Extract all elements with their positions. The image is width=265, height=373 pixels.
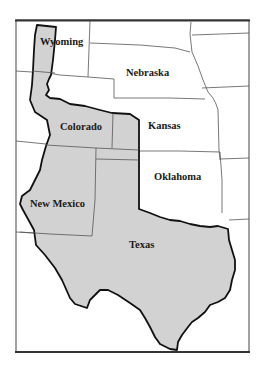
label-kansas: Kansas [148,120,181,131]
label-texas: Texas [129,239,154,250]
label-new-mexico: New Mexico [30,198,85,209]
label-wyoming: Wyoming [40,36,84,47]
label-oklahoma: Oklahoma [154,171,202,182]
map-figure: Wyoming Nebraska Colorado Kansas Oklahom… [0,0,265,373]
label-nebraska: Nebraska [126,67,170,78]
label-colorado: Colorado [60,121,102,132]
